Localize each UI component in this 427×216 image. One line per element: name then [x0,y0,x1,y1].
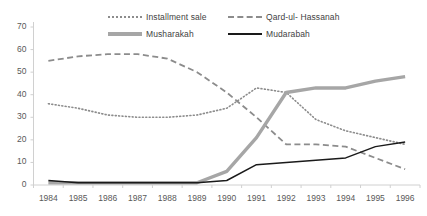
x-axis-label-1996: 1996 [387,193,423,203]
y-axis-label-20: 20 [7,134,27,144]
y-axis-label-70: 70 [7,21,27,31]
y-axis-label-40: 40 [7,89,27,99]
series-line-qard-ul-hassanah [48,54,405,169]
series-line-musharakah [48,77,405,183]
y-axis-label-0: 0 [7,179,27,189]
plot-area: 706050403020100 198419851986198719881989… [0,0,427,216]
y-axis-label-50: 50 [7,66,27,76]
y-axis-label-60: 60 [7,44,27,54]
line-chart: Installment sale Qard-ul- Hassanah Musha… [0,0,427,216]
y-axis-label-30: 30 [7,111,27,121]
series-line-installment-sale [48,88,405,144]
plot-svg [0,0,427,216]
y-axis-label-10: 10 [7,156,27,166]
